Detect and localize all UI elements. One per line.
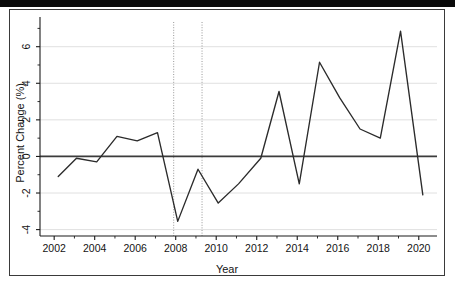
x-axis-title: Year bbox=[216, 263, 239, 275]
x-tick-label: 2014 bbox=[286, 242, 310, 254]
x-tick-label: 2010 bbox=[205, 242, 229, 254]
x-tick-label: 2012 bbox=[245, 242, 269, 254]
y-axis-title: Percent Change (%) bbox=[14, 83, 26, 183]
x-tick-label: 2008 bbox=[164, 242, 188, 254]
x-tick-label: 2004 bbox=[83, 242, 107, 254]
y-tick-label: -2 bbox=[20, 188, 32, 197]
x-tick-label: 2018 bbox=[367, 242, 391, 254]
chart-canvas: 2002200420062008201020122014201620182020… bbox=[0, 0, 455, 285]
y-tick-label: -4 bbox=[20, 225, 32, 234]
event-marker-lines bbox=[174, 22, 202, 236]
axis-lines bbox=[40, 17, 437, 236]
y-tick-label: 6 bbox=[20, 44, 32, 50]
x-tick-labels: 2002200420062008201020122014201620182020 bbox=[42, 242, 430, 254]
grid-lines bbox=[40, 47, 437, 230]
x-tick-label: 2002 bbox=[42, 242, 66, 254]
x-tick-label: 2006 bbox=[124, 242, 148, 254]
line-chart: 2002200420062008201020122014201620182020… bbox=[0, 0, 455, 285]
axis-ticks bbox=[36, 28, 419, 240]
x-tick-label: 2016 bbox=[326, 242, 350, 254]
x-tick-label: 2020 bbox=[407, 242, 431, 254]
